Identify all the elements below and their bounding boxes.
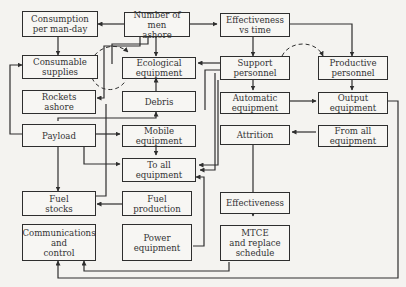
node-fuel-stocks: Fuel stocks (22, 191, 96, 216)
node-effectiveness-vs-time: Effectiveness vs time (220, 13, 290, 37)
node-debris: Debris (122, 91, 196, 112)
node-from-all-equipment: From all equipment (318, 125, 388, 147)
node-ecological-equipment: Ecological equipment (122, 57, 196, 79)
node-consumption-per-man-day: Consumption per man-day (22, 11, 98, 37)
node-fuel-production: Fuel production (122, 191, 192, 216)
node-attrition: Attrition (220, 125, 290, 145)
node-mobile-equipment: Mobile equipment (122, 125, 196, 147)
node-support-personnel: Support personnel (220, 56, 290, 80)
node-mtce-and-replace-schedule: MTCE and replace schedule (220, 225, 290, 261)
node-to-all-equipment: To all equipment (122, 158, 196, 182)
node-number-of-men-ashore: Number of men ashore (124, 12, 190, 37)
node-effectiveness: Effectiveness (220, 192, 290, 214)
node-productive-personnel: Productive personnel (318, 56, 388, 80)
node-automatic-equipment: Automatic equipment (220, 92, 290, 114)
node-rockets-ashore: Rockets ashore (22, 90, 96, 114)
node-consumable-supplies: Consumable supplies (22, 55, 98, 79)
node-output-equipment: Output equipment (318, 92, 388, 114)
node-communications-and-control: Communications and control (22, 224, 96, 261)
node-payload: Payload (22, 124, 96, 147)
flow-diagram: Consumption per man-day Number of men as… (0, 0, 406, 287)
node-power-equipment: Power equipment (122, 224, 192, 261)
